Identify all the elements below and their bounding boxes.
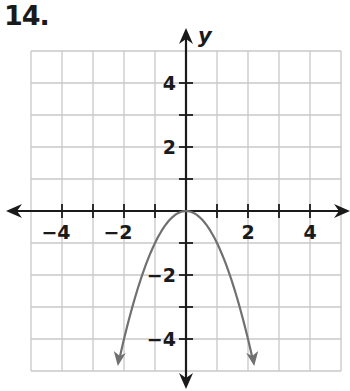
x-tick-label: 2 [241,221,254,243]
y-tick-label: 4 [163,72,176,94]
tick-labels: −4−22442−2−4y [41,24,316,350]
y-tick-label: −2 [147,264,176,286]
x-tick-label: −2 [103,221,132,243]
x-tick-label: 4 [303,221,316,243]
x-tick-label: −4 [41,221,70,243]
y-tick-label: −4 [147,328,176,350]
axes [6,28,350,389]
y-axis-label: y [198,24,213,48]
graph: −4−22442−2−4y [0,0,350,391]
y-tick-label: 2 [163,136,176,158]
